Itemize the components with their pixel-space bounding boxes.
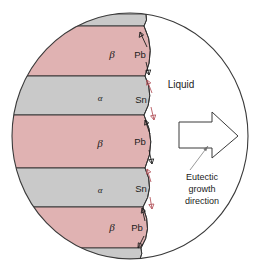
phase-label-beta-3: β: [108, 221, 115, 233]
species-label-sn-upper: Sn: [135, 94, 147, 105]
species-label-pb-bottom: Pb: [131, 222, 143, 233]
growth-caption-line-1: Eutectic: [186, 172, 219, 182]
band-beta-2: [6, 115, 151, 168]
band-alpha-2: [8, 168, 150, 207]
growth-caption-line-2: growth: [188, 184, 215, 194]
band-sliver-bottom: [40, 248, 142, 259]
phase-label-alpha-2: α: [98, 185, 103, 195]
phase-label-alpha-1: α: [98, 93, 103, 103]
eutectic-diagram-svg: β α β α β: [0, 0, 260, 270]
eutectic-growth-figure: β α β α β: [0, 0, 260, 270]
band-sliver-top: [30, 14, 147, 26]
species-label-sn-lower: Sn: [135, 183, 147, 194]
growth-caption-line-3: direction: [185, 196, 219, 206]
species-label-pb-middle: Pb: [134, 136, 146, 147]
phase-label-beta-2: β: [96, 137, 103, 149]
solid-lamellae-group: [6, 14, 151, 259]
band-beta-3: [12, 207, 148, 248]
species-label-pb-top: Pb: [134, 49, 146, 60]
band-alpha-1: [8, 76, 150, 115]
phase-label-beta-1: β: [108, 48, 115, 60]
liquid-region-label: Liquid: [168, 79, 195, 90]
